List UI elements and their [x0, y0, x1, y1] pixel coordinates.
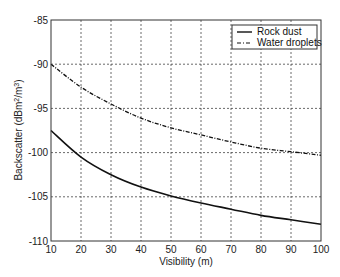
y-tick-label: -100: [28, 147, 48, 158]
legend-label-water-droplets: Water droplets: [257, 37, 322, 48]
y-tick-label: -85: [34, 15, 49, 26]
y-tick-label: -90: [34, 59, 49, 70]
x-tick-label: 90: [285, 244, 297, 255]
legend: Rock dust Water droplets: [232, 25, 322, 49]
x-tick-label: 50: [165, 244, 177, 255]
x-axis-label: Visibility (m): [159, 256, 213, 267]
x-tick-labels: 102030405060708090100: [45, 244, 329, 255]
series-line-rock-dust: [51, 131, 321, 225]
x-tick-label: 80: [255, 244, 267, 255]
data-series: [51, 64, 321, 224]
y-tick-label: -110: [29, 236, 49, 247]
backscatter-chart: 102030405060708090100 -85-90-95-100-105-…: [0, 0, 340, 277]
grid-lines: [51, 20, 321, 241]
plot-frame: [51, 20, 321, 241]
legend-label-rock-dust: Rock dust: [257, 26, 302, 37]
y-axis-label: Backscatter (dBm2/m3): [13, 79, 25, 180]
y-tick-label: -105: [28, 191, 48, 202]
series-line-water-droplets: [51, 64, 321, 155]
x-tick-label: 40: [135, 244, 147, 255]
x-tick-label: 100: [313, 244, 330, 255]
y-tick-labels: -85-90-95-100-105-110: [28, 15, 48, 247]
x-tick-label: 20: [75, 244, 87, 255]
x-tick-label: 30: [105, 244, 117, 255]
x-tick-label: 60: [195, 244, 207, 255]
y-tick-label: -95: [34, 103, 49, 114]
x-tick-label: 70: [225, 244, 237, 255]
